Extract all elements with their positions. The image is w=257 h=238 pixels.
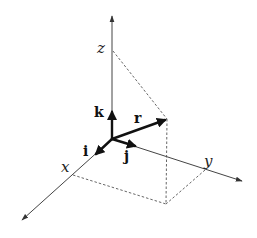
dashed-x-to-corner bbox=[73, 175, 166, 204]
vectors bbox=[96, 112, 165, 154]
vector-j-label: j bbox=[122, 148, 129, 164]
dashed-z-to-r bbox=[113, 51, 167, 119]
x-axis-label: x bbox=[61, 158, 70, 176]
z-axis-label: z bbox=[96, 39, 105, 57]
dashed-y-to-corner bbox=[166, 170, 205, 204]
vector-j bbox=[112, 139, 135, 146]
dashed-r-to-xy-plane bbox=[166, 119, 167, 204]
vector-i bbox=[96, 139, 112, 154]
axes bbox=[22, 16, 242, 220]
coordinate-diagram: z y x k r i j bbox=[0, 0, 257, 238]
projection-lines bbox=[73, 51, 205, 204]
vector-k-label: k bbox=[94, 104, 104, 120]
vector-i-label: i bbox=[83, 143, 88, 159]
y-axis-label: y bbox=[203, 152, 213, 170]
vector-r-label: r bbox=[134, 110, 142, 126]
